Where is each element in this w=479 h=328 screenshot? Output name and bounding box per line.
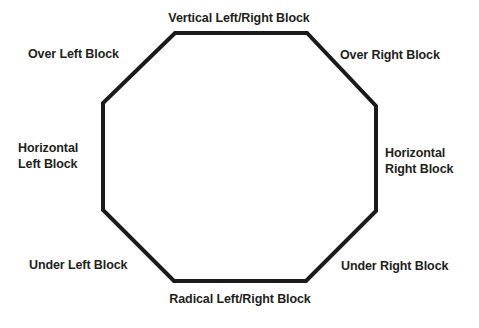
label-over-left-block: Over Left Block [28,46,119,62]
label-under-left-block: Under Left Block [29,257,127,273]
label-radical-left-right-block: Radical Left/Right Block [169,291,310,307]
octagon-outline [103,33,376,281]
label-horizontal-right-block: Horizontal Right Block [385,145,453,178]
label-vertical-left-right-block: Vertical Left/Right Block [168,10,309,26]
diagram-canvas: Vertical Left/Right Block Over Left Bloc… [0,0,479,328]
label-under-right-block: Under Right Block [341,258,448,274]
label-horizontal-left-block: Horizontal Left Block [18,140,78,173]
label-over-right-block: Over Right Block [340,47,440,63]
